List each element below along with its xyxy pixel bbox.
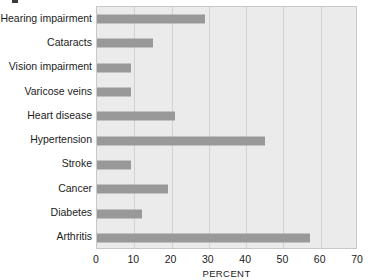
category-label: Cataracts bbox=[0, 37, 92, 48]
bar-row bbox=[97, 31, 356, 55]
category-label: Heart disease bbox=[0, 110, 92, 121]
x-tick-label: 40 bbox=[239, 253, 251, 265]
bar-chart: Hearing impairmentCataractsVision impair… bbox=[0, 0, 370, 280]
x-tick-label: 30 bbox=[202, 253, 214, 265]
bar-row bbox=[97, 7, 356, 31]
bar-row bbox=[97, 104, 356, 128]
plot-area bbox=[96, 6, 357, 249]
bar bbox=[97, 112, 175, 121]
x-tick-label: 10 bbox=[127, 253, 139, 265]
category-label: Hypertension bbox=[0, 134, 92, 145]
category-axis-labels: Hearing impairmentCataractsVision impair… bbox=[0, 6, 92, 249]
bar-row bbox=[97, 153, 356, 177]
bar bbox=[97, 209, 142, 218]
x-axis-title: PERCENT bbox=[96, 268, 357, 279]
bar bbox=[97, 63, 131, 72]
x-tick-label: 70 bbox=[351, 253, 363, 265]
bar bbox=[97, 160, 131, 169]
bar-row bbox=[97, 129, 356, 153]
scan-artifact-mark bbox=[12, 0, 18, 3]
category-label: Hearing impairment bbox=[0, 13, 92, 24]
bar-row bbox=[97, 177, 356, 201]
bar bbox=[97, 15, 205, 24]
bar-row bbox=[97, 226, 356, 249]
category-label: Varicose veins bbox=[0, 86, 92, 97]
bar bbox=[97, 88, 131, 97]
category-label: Cancer bbox=[0, 183, 92, 194]
bar-row bbox=[97, 80, 356, 104]
bar bbox=[97, 136, 265, 145]
category-label: Diabetes bbox=[0, 207, 92, 218]
category-label: Vision impairment bbox=[0, 61, 92, 72]
x-tick-label: 50 bbox=[277, 253, 289, 265]
category-label: Arthritis bbox=[0, 231, 92, 242]
bar bbox=[97, 233, 310, 242]
bar-row bbox=[97, 56, 356, 80]
x-tick-label: 20 bbox=[165, 253, 177, 265]
x-tick-label: 0 bbox=[93, 253, 99, 265]
bar-row bbox=[97, 201, 356, 225]
category-label: Stroke bbox=[0, 158, 92, 169]
bar bbox=[97, 185, 168, 194]
bar bbox=[97, 39, 153, 48]
x-tick-label: 60 bbox=[314, 253, 326, 265]
